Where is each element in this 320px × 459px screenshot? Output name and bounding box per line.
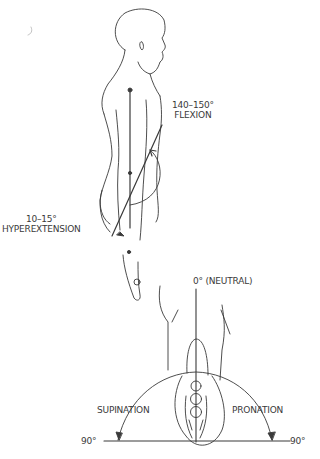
- supination-label: SUPINATION: [97, 405, 150, 415]
- side-view-figure: [100, 9, 165, 300]
- back-neck: [102, 50, 125, 114]
- elbow-pivot: [128, 171, 131, 174]
- flexion-label: 140–150° FLEXION: [172, 100, 214, 120]
- head-outline: [115, 9, 165, 74]
- body-left-outline: [159, 286, 168, 370]
- neck-front: [150, 74, 160, 96]
- body-right-inner: [221, 310, 230, 334]
- flexion-text: FLEXION: [172, 110, 214, 120]
- right-90-label: 90°: [290, 436, 305, 446]
- left-90-label: 90°: [81, 436, 96, 446]
- hyperextension-arrowhead: [117, 232, 124, 236]
- flexion-line: [112, 125, 162, 236]
- shoulder-pivot: [128, 88, 132, 92]
- hyperextension-text: HYPEREXTENSION: [2, 224, 81, 234]
- forearm-rotation-figure: [104, 286, 290, 445]
- body-left-inner: [172, 310, 178, 322]
- wrist-marker: [134, 279, 140, 285]
- scan-mark: [28, 27, 32, 35]
- pronation-label: PRONATION: [232, 405, 283, 415]
- arm-back: [116, 110, 120, 230]
- hyperextension-label: 10–15° HYPEREXTENSION: [2, 214, 81, 234]
- forearm-upper: [187, 339, 208, 375]
- pronation-arrowhead: [268, 432, 275, 440]
- supination-arrowhead: [116, 432, 122, 440]
- hand-pivot: [127, 250, 130, 253]
- hand: [123, 255, 140, 300]
- arm-front: [140, 100, 147, 240]
- ear: [140, 42, 144, 50]
- hyperextension-range: 10–15°: [2, 214, 81, 224]
- back-outline: [100, 114, 112, 224]
- neutral-label: 0° (NEUTRAL): [193, 276, 252, 286]
- flexion-range: 140–150°: [172, 100, 214, 110]
- hand-fist: [175, 376, 224, 445]
